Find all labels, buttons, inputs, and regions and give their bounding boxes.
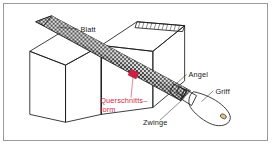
handle xyxy=(189,92,230,126)
label-querschnittsform-line2: form xyxy=(100,105,115,114)
leader-zwinge xyxy=(160,98,185,121)
label-angel: Angel xyxy=(189,70,209,79)
label-querschnittsform-line1: Querschnitts– xyxy=(100,96,148,105)
label-griff: Griff xyxy=(215,87,230,96)
wood-left-front-face xyxy=(30,51,66,122)
label-zwinge: Zwinge xyxy=(143,118,168,127)
file-tool-diagram: Blatt Angel Griff Zwinge Querschnitts– f… xyxy=(4,4,267,140)
leader-querschnittsform xyxy=(131,77,133,98)
handle-butt-detail xyxy=(220,113,228,120)
leader-griff xyxy=(201,91,213,102)
wood-left-side-face xyxy=(66,45,102,122)
figure-frame: Blatt Angel Griff Zwinge Querschnitts– f… xyxy=(3,3,268,141)
file-blade-edge xyxy=(36,16,191,94)
label-blatt: Blatt xyxy=(80,25,95,34)
